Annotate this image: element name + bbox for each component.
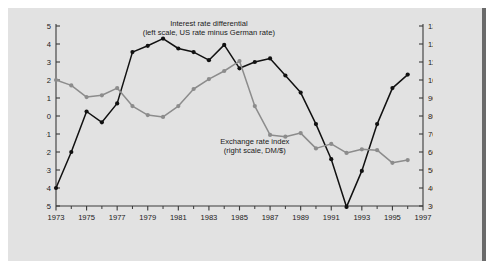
y2-axis-tick-label: 70 [428, 130, 433, 139]
chart-plot-area: −5−4−3−2−1012345304050607080901001101201… [46, 18, 433, 228]
exchange-rate-index-label-line2: (right scale, DM/$) [224, 146, 287, 155]
figure-panel: −5−4−3−2−1012345304050607080901001101201… [8, 8, 482, 261]
data-point-exchange-rate-index [237, 59, 241, 63]
x-axis-tick-label: 1997 [415, 213, 432, 222]
data-point-exchange-rate-index [406, 158, 410, 162]
data-point-interest-rate-differential [161, 37, 165, 41]
data-point-interest-rate-differential [146, 44, 150, 48]
data-point-interest-rate-differential [115, 101, 119, 105]
data-point-interest-rate-differential [100, 120, 104, 124]
data-point-interest-rate-differential [54, 186, 58, 190]
y2-axis-tick-label: 30 [428, 202, 433, 211]
y2-axis-tick-label: 100 [428, 76, 433, 85]
data-point-exchange-rate-index [207, 77, 211, 81]
x-axis-tick-label: 1985 [231, 213, 248, 222]
data-point-exchange-rate-index [375, 148, 379, 152]
data-point-exchange-rate-index [146, 113, 150, 117]
x-axis-tick-label: 1987 [262, 213, 279, 222]
y2-axis-tick-label: 90 [428, 94, 433, 103]
data-point-interest-rate-differential [283, 73, 287, 77]
y2-axis-tick-label: 120 [428, 40, 433, 49]
y2-axis-tick-label: 130 [428, 22, 433, 31]
x-axis-tick-label: 1975 [78, 213, 95, 222]
y-axis-tick-label: −1 [46, 130, 51, 139]
x-axis-tick-label: 1991 [323, 213, 340, 222]
y-axis-tick-label: −3 [46, 166, 51, 175]
data-point-interest-rate-differential [329, 157, 333, 161]
data-point-exchange-rate-index [115, 86, 119, 90]
x-axis-tick-label: 1983 [200, 213, 217, 222]
y-axis-tick-label: 0 [47, 112, 51, 121]
y-axis-tick-label: −4 [46, 184, 51, 193]
data-point-interest-rate-differential [84, 109, 88, 113]
y-axis-tick-label: −5 [46, 202, 51, 211]
y2-axis-tick-label: 60 [428, 148, 433, 157]
data-point-interest-rate-differential [390, 86, 394, 90]
x-axis-tick-label: 1993 [353, 213, 370, 222]
data-point-exchange-rate-index [344, 151, 348, 155]
data-point-interest-rate-differential [69, 150, 73, 154]
data-point-exchange-rate-index [176, 104, 180, 108]
data-point-interest-rate-differential [314, 122, 318, 126]
x-axis-tick-label: 1977 [109, 213, 126, 222]
interest-rate-differential-label-line2: (left scale, US rate minus German rate) [143, 28, 276, 37]
data-point-exchange-rate-index [100, 93, 104, 97]
data-point-interest-rate-differential [268, 56, 272, 60]
y-axis-tick-label: 2 [47, 76, 51, 85]
y-axis-tick-label: 5 [47, 22, 51, 31]
y-axis-tick-label: −2 [46, 148, 51, 157]
y-axis-tick-label: 4 [47, 40, 51, 49]
interest-rate-exchange-rate-chart: −5−4−3−2−1012345304050607080901001101201… [46, 18, 433, 228]
y2-axis-tick-label: 50 [428, 166, 433, 175]
data-point-interest-rate-differential [130, 50, 134, 54]
x-axis-tick-label: 1981 [170, 213, 187, 222]
y-axis-tick-label: 3 [47, 58, 51, 67]
data-point-interest-rate-differential [207, 58, 211, 62]
x-axis-tick-label: 1973 [48, 213, 65, 222]
x-axis-tick-label: 1989 [292, 213, 309, 222]
series-line-interest-rate-differential [56, 39, 408, 207]
data-point-interest-rate-differential [360, 169, 364, 173]
y2-axis-tick-label: 40 [428, 184, 433, 193]
data-point-exchange-rate-index [314, 146, 318, 150]
data-point-interest-rate-differential [176, 46, 180, 50]
data-point-interest-rate-differential [299, 91, 303, 95]
data-point-interest-rate-differential [344, 205, 348, 209]
exchange-rate-index-label-line1: Exchange rate index [220, 137, 289, 146]
data-point-interest-rate-differential [406, 73, 410, 77]
data-point-interest-rate-differential [253, 60, 257, 64]
data-point-exchange-rate-index [84, 95, 88, 99]
data-point-interest-rate-differential [375, 122, 379, 126]
data-point-exchange-rate-index [130, 104, 134, 108]
interest-rate-differential-label-line1: Interest rate differential [170, 19, 248, 28]
y2-axis-tick-label: 80 [428, 112, 433, 121]
data-point-exchange-rate-index [161, 115, 165, 119]
data-point-exchange-rate-index [253, 104, 257, 108]
y2-axis-tick-label: 110 [428, 58, 433, 67]
data-point-exchange-rate-index [390, 161, 394, 165]
x-axis-tick-label: 1995 [384, 213, 401, 222]
data-point-exchange-rate-index [299, 131, 303, 135]
data-point-interest-rate-differential [192, 50, 196, 54]
data-point-exchange-rate-index [192, 87, 196, 91]
data-point-interest-rate-differential [222, 43, 226, 47]
data-point-exchange-rate-index [54, 78, 58, 82]
data-point-exchange-rate-index [329, 142, 333, 146]
data-point-exchange-rate-index [360, 147, 364, 151]
data-point-exchange-rate-index [222, 69, 226, 73]
data-point-exchange-rate-index [69, 83, 73, 87]
y-axis-tick-label: 1 [47, 94, 51, 103]
x-axis-tick-label: 1979 [139, 213, 156, 222]
